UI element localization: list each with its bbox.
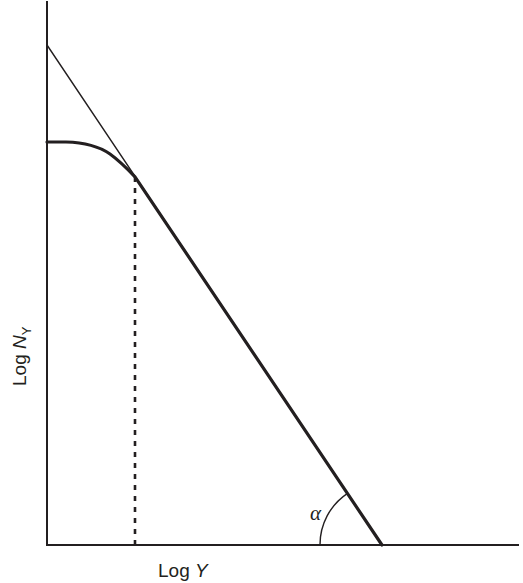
alpha-angle-arc <box>320 493 348 545</box>
x-axis-label-prefix: Log <box>158 560 195 581</box>
svg-text:Log Y: Log Y <box>158 560 209 581</box>
figure-container: α Log Y Log NY <box>0 0 523 583</box>
y-axis-label-prefix: Log <box>9 349 30 386</box>
y-axis-label: Log NY <box>9 326 34 386</box>
alpha-angle-label: α <box>310 501 322 525</box>
x-axis-label-variable: Y <box>195 560 209 581</box>
y-axis-label-subscript: Y <box>19 326 34 335</box>
luminosity-function-curve <box>47 142 382 545</box>
y-axis-label-variable: N <box>9 335 30 349</box>
log-log-luminosity-function-plot: α Log Y Log NY <box>0 0 523 583</box>
x-axis-label: Log Y <box>158 560 209 581</box>
svg-text:Log NY: Log NY <box>9 326 34 386</box>
